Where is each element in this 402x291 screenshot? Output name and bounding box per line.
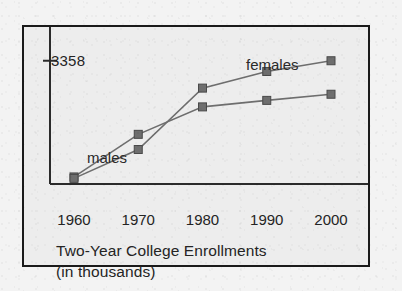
data-point-males-1990 <box>263 96 271 104</box>
data-point-females-1960 <box>70 174 78 182</box>
caption-line-2: (in thousands) <box>56 261 356 282</box>
x-axis-tick-1960: 1960 <box>57 211 90 228</box>
plot-area: 3358 19601970198019902000 males females … <box>24 27 368 265</box>
data-point-females-2000 <box>327 57 335 65</box>
data-point-males-2000 <box>327 90 335 98</box>
series-label-males: males <box>87 149 127 166</box>
x-axis-tick-labels: 19601970198019902000 <box>24 211 368 233</box>
x-axis-tick-1990: 1990 <box>250 211 283 228</box>
figure-frame: 3358 19601970198019902000 males females … <box>22 25 370 267</box>
x-axis-tick-1970: 1970 <box>122 211 155 228</box>
figure-caption: Two-Year College Enrollments (in thousan… <box>56 240 356 282</box>
y-axis-tick-label: 3358 <box>51 52 85 69</box>
x-axis-tick-1980: 1980 <box>186 211 219 228</box>
data-point-females-1980 <box>199 84 207 92</box>
data-point-males-1980 <box>199 103 207 111</box>
caption-line-1: Two-Year College Enrollments <box>56 240 356 261</box>
series-label-females: females <box>246 56 299 73</box>
data-point-males-1970 <box>134 130 142 138</box>
data-point-females-1970 <box>134 146 142 154</box>
x-axis-tick-2000: 2000 <box>314 211 347 228</box>
